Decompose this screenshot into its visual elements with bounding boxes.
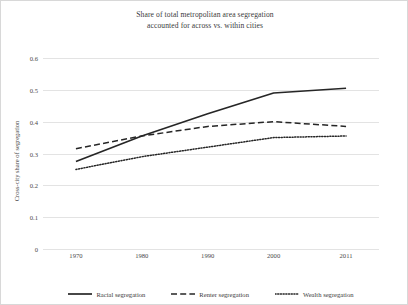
legend-entry-racial-segregation[interactable]: Racial segregation <box>68 290 145 298</box>
y-axis-tick-label: 0.4 <box>30 118 38 125</box>
legend-label: Wealth segregation <box>303 291 354 298</box>
y-axis-tick-label: 0 <box>35 246 38 253</box>
chart-title: Share of total metropolitan area segrega… <box>1 10 408 31</box>
y-axis-tick-label: 0.6 <box>30 55 38 62</box>
series-line-renter-segregation <box>76 122 346 149</box>
legend-swatch-icon <box>68 290 92 298</box>
legend-label: Renter segregation <box>199 291 249 298</box>
x-axis-tick-label: 1990 <box>201 252 214 259</box>
legend-entry-renter-segregation[interactable]: Renter segregation <box>171 290 249 298</box>
legend-swatch-icon <box>171 290 195 298</box>
y-axis-tick-label: 0.3 <box>30 150 38 157</box>
x-axis-tick-label: 1980 <box>135 252 148 259</box>
plot-area <box>43 58 379 249</box>
y-axis-tick-label: 0.1 <box>30 214 38 221</box>
x-axis-tick-label: 2011 <box>340 252 353 259</box>
gridline <box>43 249 379 250</box>
chart-title-line-1: Share of total metropolitan area segrega… <box>1 10 408 21</box>
chart-title-line-2: accounted for across vs. within cities <box>1 21 408 32</box>
chart-legend: Racial segregationRenter segregationWeal… <box>43 287 379 301</box>
series-lines <box>43 58 379 249</box>
y-axis-tick-label: 0.2 <box>30 182 38 189</box>
y-axis-tick-label: 0.5 <box>30 86 38 93</box>
legend-label: Racial segregation <box>96 291 145 298</box>
legend-swatch-icon <box>275 290 299 298</box>
chart-figure: Share of total metropolitan area segrega… <box>0 0 408 305</box>
x-axis-tick-labels: 19701980199020002011 <box>43 252 379 266</box>
x-axis-tick-label: 2000 <box>267 252 280 259</box>
y-axis-tick-labels: 00.10.20.30.40.50.6 <box>1 58 43 249</box>
legend-entry-wealth-segregation[interactable]: Wealth segregation <box>275 290 354 298</box>
series-line-racial-segregation <box>76 88 346 161</box>
x-axis-tick-label: 1970 <box>69 252 82 259</box>
